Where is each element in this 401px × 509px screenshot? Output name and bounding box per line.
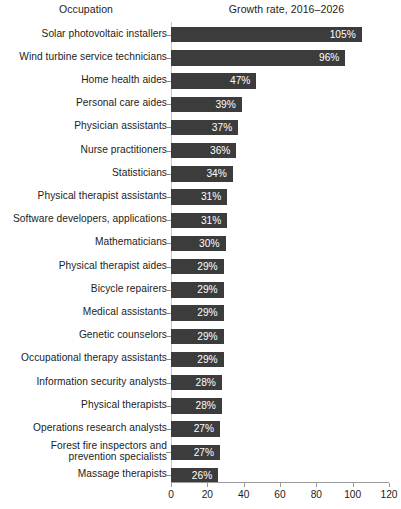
bar-value-label: 47% — [171, 73, 250, 88]
column-header-occupation: Occupation — [0, 3, 172, 15]
bar-row: Massage therapists26% — [0, 465, 401, 488]
bar-chart: Occupation Growth rate, 2016–2026 Solar … — [0, 0, 401, 509]
category-label: Bicycle repairers — [7, 283, 167, 294]
category-label: Statisticians — [7, 167, 167, 178]
x-axis-tick — [280, 483, 281, 487]
x-axis-tick-label: 0 — [151, 489, 191, 500]
category-label: Forest fire inspectors andprevention spe… — [7, 440, 167, 463]
bar-value-label: 96% — [171, 50, 339, 65]
bar-value-label: 31% — [171, 213, 221, 228]
bar-row: Operations research analysts27% — [0, 418, 401, 441]
category-label: Solar photovoltaic installers — [7, 28, 167, 39]
bar-value-label: 29% — [171, 305, 218, 320]
bar-value-label: 30% — [171, 236, 220, 251]
bar-row: Physician assistants37% — [0, 117, 401, 140]
bar-value-label: 39% — [171, 97, 236, 112]
plot-area: Solar photovoltaic installers105%Wind tu… — [0, 22, 401, 482]
category-label: Home health aides — [7, 74, 167, 85]
category-label: Physical therapists — [7, 399, 167, 410]
category-label: Physical therapist aides — [7, 260, 167, 271]
category-label: Medical assistants — [7, 306, 167, 317]
bar-value-label: 29% — [171, 259, 218, 274]
bar-value-label: 29% — [171, 352, 218, 367]
bar-value-label: 37% — [171, 120, 232, 135]
bar-row: Mathematicians30% — [0, 233, 401, 256]
x-axis-tick — [207, 483, 208, 487]
bar-row: Medical assistants29% — [0, 302, 401, 325]
bar-row: Wind turbine service technicians96% — [0, 47, 401, 70]
x-axis-tick — [171, 483, 172, 487]
bar-row: Forest fire inspectors andprevention spe… — [0, 442, 401, 465]
bar-row: Occupational therapy assistants29% — [0, 349, 401, 372]
x-axis-tick — [244, 483, 245, 487]
bar-value-label: 36% — [171, 143, 230, 158]
bar-row: Physical therapist assistants31% — [0, 186, 401, 209]
bar-row: Genetic counselors29% — [0, 326, 401, 349]
category-label: Wind turbine service technicians — [7, 51, 167, 62]
category-label: Massage therapists — [7, 468, 167, 479]
x-axis-tick-label: 80 — [296, 489, 336, 500]
category-label: Personal care aides — [7, 97, 167, 108]
column-header-growth-rate: Growth rate, 2016–2026 — [172, 3, 401, 15]
category-label: Mathematicians — [7, 236, 167, 247]
x-axis-tick — [316, 483, 317, 487]
bar-value-label: 27% — [171, 421, 214, 436]
x-axis-tick — [389, 483, 390, 487]
category-label: Software developers, applications — [7, 213, 167, 224]
x-axis-tick-label: 60 — [260, 489, 300, 500]
category-label: Genetic counselors — [7, 329, 167, 340]
bar-value-label: 29% — [171, 329, 218, 344]
bar-row: Statisticians34% — [0, 163, 401, 186]
category-label: Information security analysts — [7, 376, 167, 387]
bar-row: Solar photovoltaic installers105% — [0, 24, 401, 47]
bar-value-label: 28% — [171, 398, 216, 413]
x-axis-tick-label: 120 — [369, 489, 401, 500]
x-axis-tick-label: 40 — [224, 489, 264, 500]
bar-row: Home health aides47% — [0, 70, 401, 93]
bar-row: Physical therapist aides29% — [0, 256, 401, 279]
category-label: Physical therapist assistants — [7, 190, 167, 201]
bar-value-label: 28% — [171, 375, 216, 390]
bar-row: Personal care aides39% — [0, 94, 401, 117]
x-axis-tick — [353, 483, 354, 487]
category-label: Occupational therapy assistants — [7, 352, 167, 363]
bar-value-label: 105% — [171, 27, 356, 42]
bar-row: Nurse practitioners36% — [0, 140, 401, 163]
bar-value-label: 26% — [171, 468, 212, 483]
bar-row: Physical therapists28% — [0, 395, 401, 418]
bar-row: Information security analysts28% — [0, 372, 401, 395]
bar-value-label: 34% — [171, 166, 227, 181]
category-label: Nurse practitioners — [7, 144, 167, 155]
bar-row: Bicycle repairers29% — [0, 279, 401, 302]
bar-value-label: 31% — [171, 189, 221, 204]
x-axis-tick-label: 100 — [333, 489, 373, 500]
bar-value-label: 29% — [171, 282, 218, 297]
category-label: Physician assistants — [7, 120, 167, 131]
category-label: Operations research analysts — [7, 422, 167, 433]
x-axis-tick-label: 20 — [187, 489, 227, 500]
bar-row: Software developers, applications31% — [0, 210, 401, 233]
bar-value-label: 27% — [171, 445, 214, 460]
